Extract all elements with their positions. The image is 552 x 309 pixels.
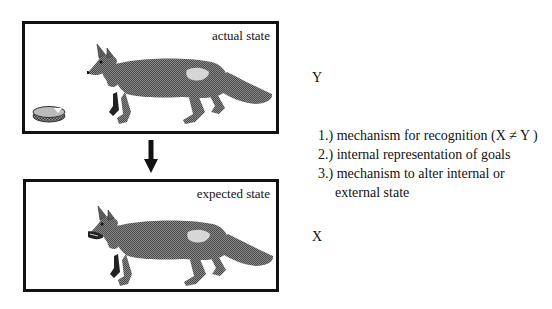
requirement-alter-state-continued: external state <box>318 183 538 202</box>
requirement-goal-representation: 2.) internal representation of goals <box>318 145 538 164</box>
fox-icon <box>87 42 277 134</box>
actual-state-panel: actual state <box>22 21 279 134</box>
variable-y-label: Y <box>312 71 322 85</box>
expected-state-panel: expected state <box>23 179 279 292</box>
expected-state-label: expected state <box>197 187 270 201</box>
fox-with-dish-icon <box>88 204 278 296</box>
requirement-recognition: 1.) mechanism for recognition (X ≠ Y ) <box>318 126 538 145</box>
down-arrow-icon <box>143 140 159 174</box>
dish-icon <box>32 104 68 124</box>
requirement-alter-state: 3.) mechanism to alter internal or <box>318 164 538 183</box>
actual-state-label: actual state <box>212 29 270 43</box>
requirements-list: 1.) mechanism for recognition (X ≠ Y ) 2… <box>318 126 538 202</box>
variable-x-label: X <box>312 230 322 244</box>
